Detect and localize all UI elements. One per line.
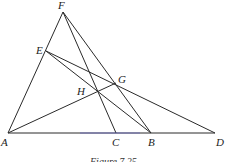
segment-ag (8, 83, 116, 133)
label-e: E (35, 44, 43, 56)
segment-eb (46, 51, 151, 133)
geometry-figure: F E G H A C B D Figure 7.25 (0, 0, 232, 162)
label-b: B (148, 136, 155, 148)
figure-caption: Figure 7.25 (89, 156, 137, 162)
label-g: G (118, 73, 126, 85)
segment-fb (63, 12, 151, 133)
segment-ed (46, 51, 215, 133)
label-f: F (57, 0, 65, 11)
label-c: C (112, 136, 120, 148)
label-a: A (0, 136, 8, 148)
label-d: D (215, 136, 224, 148)
segment-fa (8, 12, 63, 133)
label-h: H (76, 85, 86, 97)
